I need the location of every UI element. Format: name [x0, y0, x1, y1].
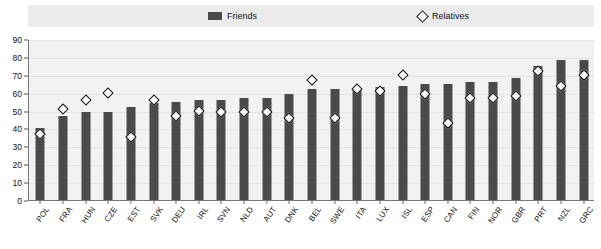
x-axis-label-fin: FIN [467, 205, 482, 221]
legend-item-relatives: Relatives [418, 5, 469, 27]
x-axis-label-ita: ITA [354, 205, 369, 220]
y-axis-tick-label: 80 [13, 53, 22, 63]
bar-swatch-icon [208, 12, 222, 20]
y-axis-tick-label: 10 [13, 178, 22, 188]
chart-category-column [572, 40, 595, 200]
chart-category-column [52, 40, 75, 200]
x-axis-label-fra: FRA [57, 205, 74, 224]
x-axis-label-prt: PRT [533, 205, 550, 224]
bar-friends [353, 89, 362, 200]
chart-category-column [142, 40, 165, 200]
x-axis-label-dnk: DNK [283, 205, 300, 224]
chart-category-column [165, 40, 188, 200]
x-axis-label-nzl: NZL [556, 205, 572, 223]
marker-relatives [57, 103, 68, 114]
chart-category-column [29, 40, 52, 200]
chart-category-column [527, 40, 550, 200]
x-axis-labels: POLFRAHUNCZEESTSVKDEUIRLSVNNLDAUTDNKBELS… [28, 203, 594, 249]
plot-area [28, 40, 594, 201]
chart-category-column [255, 40, 278, 200]
x-axis-label-swe: SWE [328, 205, 346, 226]
y-axis: 0102030405060708090 [0, 40, 28, 201]
chart-container: Friends Relatives 0102030405060708090 PO… [0, 0, 601, 249]
bar-friends [285, 94, 294, 200]
chart-category-column [346, 40, 369, 200]
legend-label-relatives: Relatives [432, 11, 469, 21]
bar-friends [149, 103, 158, 200]
x-axis-label-pol: POL [35, 205, 52, 224]
bar-friends [534, 66, 543, 200]
chart-category-column [187, 40, 210, 200]
y-axis-tick-label: 60 [13, 89, 22, 99]
bar-friends [104, 112, 113, 200]
bar-friends [421, 84, 430, 200]
x-axis-label-grc: GRC [577, 205, 595, 225]
chart-category-column [482, 40, 505, 200]
x-axis-label-esp: ESP [420, 205, 437, 224]
x-axis-label-deu: DEU [170, 205, 187, 224]
y-axis-tick-label: 40 [13, 124, 22, 134]
chart-category-column [414, 40, 437, 200]
y-axis-tick-label: 50 [13, 107, 22, 117]
y-axis-tick-label: 90 [13, 35, 22, 45]
x-axis-label-hun: HUN [79, 205, 97, 225]
x-axis-label-svk: SVK [148, 205, 165, 224]
marker-relatives [103, 87, 114, 98]
marker-relatives [397, 69, 408, 80]
chart-category-column [97, 40, 120, 200]
chart-category-column [369, 40, 392, 200]
chart-category-column [74, 40, 97, 200]
x-axis-label-svn: SVN [216, 205, 233, 224]
bar-friends [579, 60, 588, 200]
bar-friends [375, 87, 384, 200]
chart-legend: Friends Relatives [28, 5, 594, 27]
x-axis-label-aut: AUT [261, 205, 278, 224]
chart-category-column [278, 40, 301, 200]
y-axis-tick-label: 0 [17, 196, 22, 206]
y-axis-tick-label: 20 [13, 160, 22, 170]
chart-category-column [391, 40, 414, 200]
y-axis-tick-label: 30 [13, 142, 22, 152]
chart-category-column [550, 40, 573, 200]
legend-label-friends: Friends [227, 11, 257, 21]
chart-category-column [120, 40, 143, 200]
x-axis-label-lux: LUX [375, 205, 392, 223]
bar-friends [126, 107, 135, 200]
diamond-marker-icon [416, 10, 429, 23]
bar-friends [58, 116, 67, 200]
x-axis-label-bel: BEL [307, 205, 323, 223]
legend-item-friends: Friends [208, 5, 257, 27]
bar-series-group [29, 40, 594, 200]
bar-friends [330, 89, 339, 200]
bar-friends [307, 89, 316, 200]
x-axis-label-can: CAN [442, 205, 459, 224]
bar-friends [81, 112, 90, 200]
x-axis-label-irl: IRL [195, 205, 210, 221]
chart-category-column [459, 40, 482, 200]
marker-relatives [306, 74, 317, 85]
chart-category-column [210, 40, 233, 200]
x-axis-label-isl: ISL [399, 205, 414, 220]
bar-friends [443, 84, 452, 200]
y-axis-tick-label: 70 [13, 71, 22, 81]
chart-category-column [323, 40, 346, 200]
marker-relatives [80, 94, 91, 105]
chart-category-column [504, 40, 527, 200]
x-axis-label-nor: NOR [487, 205, 505, 225]
x-axis-label-nld: NLD [239, 205, 256, 224]
x-axis-label-cze: CZE [103, 205, 120, 224]
chart-category-column [437, 40, 460, 200]
chart-category-column [301, 40, 324, 200]
x-axis-label-gbr: GBR [509, 205, 527, 225]
bar-friends [398, 86, 407, 200]
chart-category-column [233, 40, 256, 200]
x-axis-label-est: EST [126, 205, 143, 223]
